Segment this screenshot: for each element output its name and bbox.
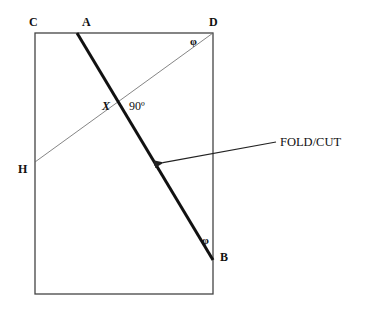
angle-phi-top: φ (190, 36, 197, 47)
diagonal-line-dh (35, 33, 213, 162)
callout-arrow (163, 142, 276, 163)
angle-phi-bottom: φ (202, 235, 209, 246)
diagram-canvas (0, 0, 365, 317)
fold-cut-line-ab (77, 33, 213, 260)
point-label-d: D (209, 16, 218, 28)
point-label-a: A (82, 16, 91, 28)
point-label-c: C (29, 16, 38, 28)
right-angle-label: 90º (129, 100, 145, 112)
point-label-x: X (102, 100, 110, 112)
fold-cut-callout-label: FOLD/CUT (280, 136, 341, 148)
point-label-h: H (18, 163, 27, 175)
point-label-b: B (220, 251, 228, 263)
sheet-rectangle (35, 33, 213, 294)
